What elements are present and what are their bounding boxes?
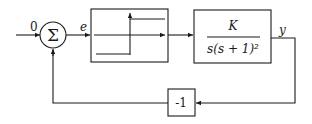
plant-denominator: s(s + 1)² <box>207 42 259 56</box>
plant-numerator: K <box>228 19 239 33</box>
feedback-line <box>53 50 168 103</box>
output-label: y <box>278 23 286 37</box>
input-label: 0 <box>30 20 38 34</box>
sigma-symbol: Σ <box>47 25 59 45</box>
block-diagram: 0 Σ e K s(s + 1)² y -1 <box>0 0 312 124</box>
error-label: e <box>80 20 87 34</box>
diagram-canvas: 0 Σ e K s(s + 1)² y -1 <box>0 0 312 124</box>
feedback-gain-label: -1 <box>175 96 187 110</box>
